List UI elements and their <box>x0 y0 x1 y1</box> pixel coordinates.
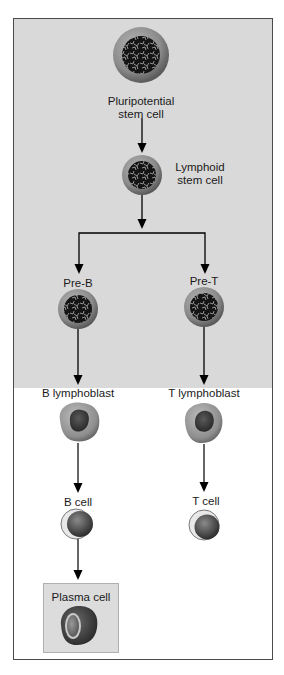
lymphoid-label-line2: stem cell <box>170 174 230 187</box>
pluripotential-label-line2: stem cell <box>96 108 186 121</box>
pre-b-label: Pre-B <box>50 277 106 290</box>
plasma-cell-label: Plasma cell <box>43 591 119 604</box>
t-lymphoblast-label: T lymphoblast <box>159 387 249 400</box>
lymphoid-label: Lymphoid stem cell <box>170 161 230 187</box>
plasma-cell-icon <box>61 606 97 645</box>
t-cell-label: T cell <box>176 495 236 508</box>
b-lymphoblast-label: B lymphoblast <box>33 387 123 400</box>
b-cell-label: B cell <box>48 496 108 509</box>
pluripotential-label-line1: Pluripotential <box>96 95 186 108</box>
lymphoid-label-line1: Lymphoid <box>170 161 230 174</box>
pre-t-label: Pre-T <box>176 275 232 288</box>
pluripotential-label: Pluripotential stem cell <box>96 95 186 121</box>
